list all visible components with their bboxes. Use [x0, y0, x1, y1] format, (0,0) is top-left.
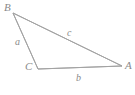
triangle-side-c-segment: [13, 13, 122, 66]
side-label-a: a: [15, 37, 20, 47]
side-label-c: c: [67, 28, 71, 38]
triangle-side-b-segment: [38, 66, 122, 69]
vertex-label-c: C: [25, 61, 32, 72]
vertex-label-b: B: [4, 2, 11, 13]
side-label-b: b: [76, 73, 81, 83]
vertex-label-a: A: [125, 60, 132, 71]
triangle-figure: B C A a b c: [0, 0, 135, 95]
triangle-drawing-canvas: [0, 0, 135, 95]
